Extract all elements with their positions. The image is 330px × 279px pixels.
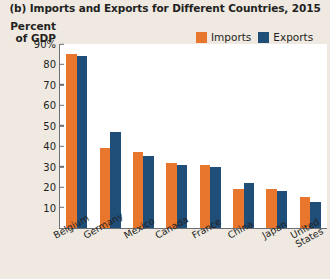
y-tick-10: 10 xyxy=(43,202,60,213)
legend-item-imports: Imports xyxy=(196,31,251,43)
y-tick-40: 40 xyxy=(43,141,60,152)
bar-group xyxy=(160,44,193,228)
x-tick-label-wrap: Canada xyxy=(160,231,194,279)
chart-container: (b) Imports and Exports for Different Co… xyxy=(0,0,330,279)
y-tick-90: 90% xyxy=(34,39,60,50)
x-axis-labels: BelgiumGermanyMexicoCanadaFranceChinaJap… xyxy=(59,231,327,279)
y-tick-20: 20 xyxy=(43,182,60,193)
bar-group xyxy=(127,44,160,228)
y-tick-70: 70 xyxy=(43,79,60,90)
bar-group xyxy=(260,44,293,228)
bar-imports xyxy=(200,165,211,228)
y-tick-80: 80 xyxy=(43,59,60,70)
bar-group xyxy=(227,44,260,228)
bar-imports xyxy=(66,54,77,228)
x-tick-label-wrap: Germany xyxy=(93,231,127,279)
bar-imports xyxy=(133,152,144,228)
legend-label-exports: Exports xyxy=(273,31,313,43)
bar-group xyxy=(194,44,227,228)
bar-group xyxy=(93,44,126,228)
x-tick-label-wrap: Mexico xyxy=(126,231,160,279)
chart-title: (b) Imports and Exports for Different Co… xyxy=(0,2,330,14)
chart-legend: Imports Exports xyxy=(196,31,313,43)
x-tick-label-wrap: China xyxy=(227,231,261,279)
y-tick-50: 50 xyxy=(43,120,60,131)
bar-groups xyxy=(60,44,327,228)
legend-swatch-exports xyxy=(258,32,269,43)
x-tick-label-wrap: Japan xyxy=(260,231,294,279)
y-tick-60: 60 xyxy=(43,100,60,111)
legend-label-imports: Imports xyxy=(211,31,251,43)
bar-exports xyxy=(77,56,88,228)
plot-area: 90%8070605040302010 xyxy=(59,44,327,229)
legend-swatch-imports xyxy=(196,32,207,43)
bar-group xyxy=(294,44,327,228)
x-tick-label-wrap: United States xyxy=(294,231,328,279)
legend-item-exports: Exports xyxy=(258,31,313,43)
x-tick-label-wrap: France xyxy=(193,231,227,279)
bar-group xyxy=(60,44,93,228)
y-tick-30: 30 xyxy=(43,161,60,172)
